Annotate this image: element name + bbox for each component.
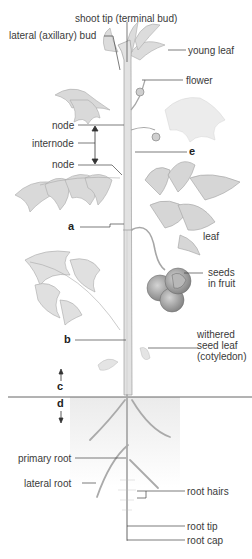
withered-line-2: seed leaf (197, 340, 246, 351)
label-root-tip: root tip (187, 521, 218, 532)
label-c: c (57, 381, 63, 392)
internode-arrow (92, 126, 98, 164)
leaf-right (145, 162, 240, 255)
label-shoot-tip: shoot tip (terminal bud) (75, 13, 177, 24)
label-flower: flower (186, 75, 213, 86)
label-young-leaf: young leaf (188, 45, 234, 56)
leaf-middle-left (15, 174, 120, 212)
label-lateral-bud: lateral (axillary) bud (9, 30, 96, 41)
tomato-fruit (147, 268, 191, 312)
seeds-line-1: seeds (208, 267, 235, 278)
label-e: e (189, 146, 195, 157)
flower-icon (136, 88, 160, 141)
young-leaf-cluster (103, 22, 165, 60)
leaf-upper-right-faded (165, 98, 225, 143)
label-leaf: leaf (203, 231, 219, 242)
label-primary-root: primary root (18, 453, 71, 464)
leaf-upper-left (55, 89, 110, 124)
label-root-hairs: root hairs (187, 486, 229, 497)
label-node-lower: node (52, 159, 74, 170)
main-stem (118, 40, 132, 395)
label-withered-seed-leaf: withered seed leaf (cotyledon) (197, 329, 246, 362)
flower-branch (131, 80, 155, 130)
direction-arrows (59, 369, 63, 423)
withered-line-1: withered (197, 329, 246, 340)
label-lateral-root: lateral root (24, 478, 71, 489)
label-seeds-in-fruit: seeds in fruit (208, 267, 235, 289)
label-a: a (68, 221, 74, 232)
withered-line-3: (cotyledon) (197, 351, 246, 362)
seeds-line-2: in fruit (208, 278, 235, 289)
label-node-upper: node (52, 120, 74, 131)
leaf-lower-left (25, 251, 120, 330)
label-b: b (64, 334, 71, 345)
label-root-cap: root cap (187, 535, 223, 546)
label-d: d (57, 398, 64, 409)
soil-region (70, 397, 180, 487)
fruit-branch (131, 228, 165, 271)
label-internode: internode (32, 138, 74, 149)
